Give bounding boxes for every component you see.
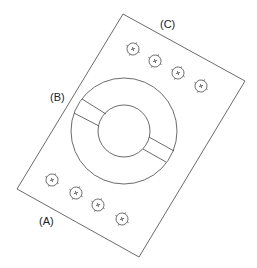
hole-row-bottom [42, 170, 132, 229]
mounting-hole-icon [88, 195, 108, 215]
mounting-hole-icon [112, 209, 132, 229]
mounting-hole-icon [191, 76, 211, 96]
outer-ring-circle [71, 78, 177, 184]
mounting-hole-icon [145, 51, 165, 71]
mounting-hole-icon [168, 63, 188, 83]
hole-row-top [123, 39, 211, 96]
mounting-hole-icon [123, 39, 143, 59]
label-a: (A) [39, 216, 54, 227]
label-c: (C) [160, 19, 175, 30]
label-b: (B) [50, 92, 65, 103]
inner-ring-circle [98, 105, 150, 157]
mounting-hole-icon [42, 170, 62, 190]
mounting-hole-icon [66, 183, 86, 203]
plate-diagram [0, 0, 257, 268]
